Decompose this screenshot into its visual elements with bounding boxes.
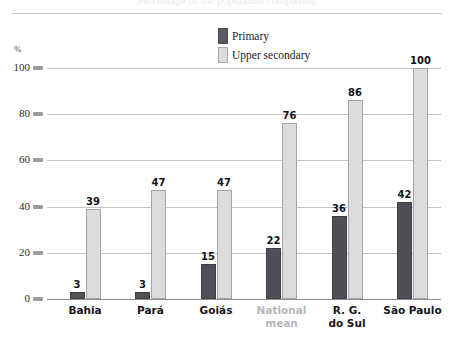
bar-group: 347: [120, 59, 182, 299]
bar-column: 36: [332, 216, 347, 299]
bar-primary[interactable]: [135, 292, 150, 299]
bar-primary[interactable]: [266, 248, 281, 299]
y-tick-100: [33, 66, 43, 70]
bar-value-label: 3: [139, 279, 146, 290]
y-label-0: 0: [4, 292, 30, 304]
y-label-20: 20: [4, 246, 30, 258]
bar-value-label: 3: [74, 279, 81, 290]
bar-primary[interactable]: [397, 202, 412, 299]
y-tick-40: [33, 205, 43, 209]
x-axis-label-line: São Paulo: [370, 304, 454, 317]
bar-upper-secondary[interactable]: [217, 190, 232, 299]
x-axis-label-line: do Sul: [304, 317, 390, 330]
bar-group: 42100: [382, 59, 444, 299]
y-label-80: 80: [4, 107, 30, 119]
bar-upper-secondary[interactable]: [413, 68, 428, 299]
gridline-0: [47, 299, 441, 300]
bar-value-label: 42: [398, 189, 412, 200]
legend-swatch-primary: [218, 28, 228, 44]
bar-upper-secondary[interactable]: [151, 190, 166, 299]
bar-chart: % 020406080100 PrimaryUpper secondary 33…: [0, 0, 454, 342]
bar-column: 3: [70, 292, 85, 299]
bar-column: 100: [413, 68, 428, 299]
y-label-60: 60: [4, 153, 30, 165]
bar-column: 39: [86, 209, 101, 299]
bar-value-label: 86: [348, 87, 362, 98]
bar-value-label: 76: [283, 110, 297, 121]
bar-column: 3: [135, 292, 150, 299]
y-label-100: 100: [4, 61, 30, 73]
bar-pair: 3686: [316, 59, 378, 299]
bar-pair: 347: [120, 59, 182, 299]
bar-primary[interactable]: [70, 292, 85, 299]
bar-pair: 339: [54, 59, 116, 299]
bar-primary[interactable]: [332, 216, 347, 299]
bar-pair: 2276: [251, 59, 313, 299]
bar-column: 47: [217, 190, 232, 299]
bar-upper-secondary[interactable]: [86, 209, 101, 299]
bar-column: 15: [201, 264, 216, 299]
bar-group: 1547: [185, 59, 247, 299]
y-label-40: 40: [4, 200, 30, 212]
bar-group: 2276: [251, 59, 313, 299]
legend-swatch-upper_secondary: [218, 47, 228, 63]
bar-column: 42: [397, 202, 412, 299]
bar-upper-secondary[interactable]: [282, 123, 297, 299]
bar-value-label: 100: [410, 55, 431, 66]
bar-value-label: 36: [332, 203, 346, 214]
bar-primary[interactable]: [201, 264, 216, 299]
bar-value-label: 22: [267, 235, 281, 246]
bar-value-label: 47: [152, 177, 166, 188]
y-tick-20: [33, 251, 43, 255]
bar-group: 339: [54, 59, 116, 299]
legend-label-primary: Primary: [232, 30, 269, 42]
bar-group: 3686: [316, 59, 378, 299]
legend-item-primary[interactable]: Primary: [218, 28, 310, 43]
bar-value-label: 39: [86, 196, 100, 207]
legend-label-upper_secondary: Upper secondary: [232, 49, 310, 61]
x-axis-label: São Paulo: [370, 304, 454, 317]
bar-value-label: 47: [217, 177, 231, 188]
bar-column: 86: [348, 100, 363, 299]
bar-value-label: 15: [201, 251, 215, 262]
chart-legend: PrimaryUpper secondary: [218, 28, 310, 66]
y-axis-unit-label: %: [14, 44, 22, 54]
bar-upper-secondary[interactable]: [348, 100, 363, 299]
y-tick-0: [33, 297, 43, 301]
bar-column: 76: [282, 123, 297, 299]
bar-column: 47: [151, 190, 166, 299]
y-tick-80: [33, 112, 43, 116]
legend-item-upper_secondary[interactable]: Upper secondary: [218, 47, 310, 62]
bar-pair: 1547: [185, 59, 247, 299]
bar-column: 22: [266, 248, 281, 299]
bar-pair: 42100: [382, 59, 444, 299]
y-tick-60: [33, 158, 43, 162]
